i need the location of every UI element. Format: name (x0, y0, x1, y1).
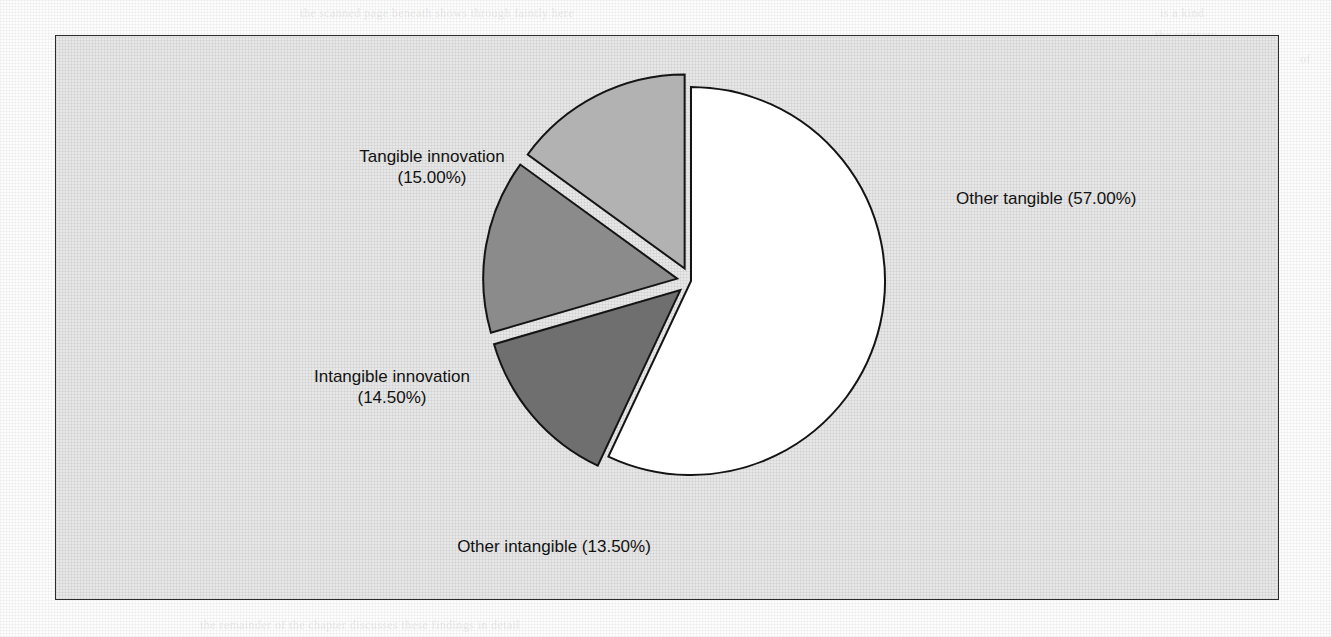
pie-label-tangible-innovation-line1: Tangible innovation (359, 147, 505, 166)
bleed-text: is a kind (1160, 6, 1204, 21)
pie-slices (483, 75, 885, 475)
pie-label-tangible-innovation: Tangible innovation (15.00%) (292, 146, 572, 188)
pie-label-other-tangible: Other tangible (57.00%) (956, 188, 1279, 209)
bleed-text: of (1300, 52, 1311, 67)
pie-label-intangible-innovation-line2: (14.50%) (252, 387, 532, 408)
pie-label-other-intangible: Other intangible (13.50%) (394, 536, 714, 557)
chart-frame: Tangible innovation (15.00%) Intangible … (55, 35, 1279, 600)
pie-chart (56, 36, 1279, 600)
pie-label-other-tangible-line1: Other tangible (57.00%) (956, 189, 1137, 208)
bleed-text: the remainder of the chapter discusses t… (200, 618, 520, 633)
pie-label-tangible-innovation-line2: (15.00%) (292, 167, 572, 188)
pie-label-intangible-innovation: Intangible innovation (14.50%) (252, 366, 532, 408)
pie-label-intangible-innovation-line1: Intangible innovation (314, 367, 470, 386)
page-background: the scanned page beneath shows through f… (0, 0, 1331, 637)
pie-label-other-intangible-line1: Other intangible (13.50%) (457, 537, 651, 556)
bleed-text: the scanned page beneath shows through f… (300, 6, 574, 21)
